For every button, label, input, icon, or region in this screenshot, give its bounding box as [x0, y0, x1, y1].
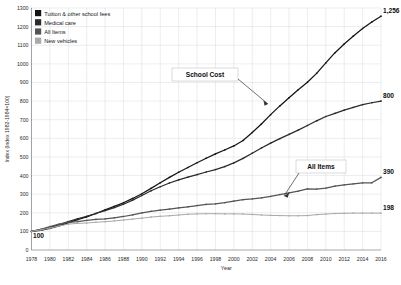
series-marker — [160, 209, 161, 210]
x-axis-tick-label: 2004 — [265, 256, 277, 262]
series-marker — [307, 125, 308, 126]
series-marker — [270, 196, 271, 197]
series-marker — [344, 109, 345, 110]
series-marker — [68, 222, 69, 223]
x-axis-tick-label: 1986 — [99, 256, 111, 262]
series-marker — [334, 185, 335, 186]
series-marker — [169, 177, 170, 178]
y-axis-title: Index (Index 1982-1984=100) — [4, 95, 10, 162]
x-axis-tick-label: 1978 — [26, 256, 38, 262]
series-marker — [114, 220, 115, 221]
y-axis-tick-label: 800 — [20, 98, 29, 104]
legend-label-3: New vehicles — [44, 38, 77, 44]
series-marker — [104, 221, 105, 222]
y-axis-tick-label: 1100 — [17, 42, 28, 48]
series-marker — [160, 216, 161, 217]
series-marker — [252, 214, 253, 215]
series-marker — [261, 123, 262, 124]
series-marker — [353, 183, 354, 184]
series-marker — [344, 43, 345, 44]
series-marker — [242, 140, 243, 141]
series-marker — [371, 182, 372, 183]
series-marker — [224, 166, 225, 167]
x-axis-tick-label: 2002 — [246, 256, 258, 262]
series-marker — [380, 212, 381, 213]
legend-label-1: Medical care — [44, 20, 76, 26]
series-marker — [114, 207, 115, 208]
series-marker — [123, 202, 124, 203]
x-axis-tick-label: 2014 — [357, 256, 369, 262]
x-axis-tick-label: 1992 — [154, 256, 166, 262]
series-marker — [86, 222, 87, 223]
series-marker — [224, 149, 225, 150]
series-marker — [362, 28, 363, 29]
series-marker — [362, 182, 363, 183]
series-marker — [160, 186, 161, 187]
series-marker — [252, 198, 253, 199]
x-axis-tick-label: 1988 — [118, 256, 130, 262]
series-end-label: 390 — [383, 168, 394, 175]
legend-swatch-2 — [35, 28, 41, 34]
series-marker — [233, 213, 234, 214]
series-marker — [362, 212, 363, 213]
series-marker — [270, 142, 271, 143]
series-marker — [169, 182, 170, 183]
series-marker — [187, 167, 188, 168]
series-marker — [77, 218, 78, 219]
series-marker — [316, 73, 317, 74]
series-marker — [77, 223, 78, 224]
series-marker — [58, 223, 59, 224]
legend-label-0: Tuition & other school fees — [44, 11, 110, 17]
series-marker — [104, 218, 105, 219]
series-marker — [95, 219, 96, 220]
series-marker — [334, 213, 335, 214]
series-marker — [270, 215, 271, 216]
series-marker — [353, 35, 354, 36]
legend-label-2: All Items — [44, 29, 66, 35]
series-marker — [49, 227, 50, 228]
series-marker — [95, 222, 96, 223]
series-marker — [187, 177, 188, 178]
series-marker — [187, 214, 188, 215]
x-axis-tick-label: 2006 — [283, 256, 295, 262]
line-chart: 0100200300400500600700800900100011001200… — [0, 0, 401, 285]
y-axis-tick-label: 900 — [20, 79, 29, 85]
chart-container: 0100200300400500600700800900100011001200… — [0, 0, 401, 285]
x-axis-tick-label: 1990 — [136, 256, 148, 262]
series-marker — [298, 215, 299, 216]
series-marker — [362, 104, 363, 105]
series-marker — [252, 153, 253, 154]
series-marker — [371, 212, 372, 213]
series-marker — [132, 218, 133, 219]
series-marker — [123, 219, 124, 220]
series-marker — [68, 223, 69, 224]
series-marker — [206, 213, 207, 214]
series-marker — [132, 214, 133, 215]
series-marker — [150, 216, 151, 217]
series-marker — [261, 214, 262, 215]
x-axis-title: Year — [221, 265, 232, 271]
series-marker — [316, 188, 317, 189]
series-end-label: 198 — [383, 204, 394, 211]
y-axis-tick-label: 700 — [20, 117, 29, 123]
series-marker — [307, 188, 308, 189]
series-marker — [334, 52, 335, 53]
series-marker — [279, 105, 280, 106]
x-axis-tick-label: 1984 — [81, 256, 93, 262]
y-axis-tick-label: 600 — [20, 135, 29, 141]
series-marker — [316, 214, 317, 215]
series-marker — [288, 215, 289, 216]
series-marker — [150, 211, 151, 212]
series-marker — [316, 120, 317, 121]
series-marker — [215, 153, 216, 154]
series-marker — [206, 171, 207, 172]
series-marker — [233, 200, 234, 201]
series-marker — [334, 113, 335, 114]
series-marker — [380, 100, 381, 101]
series-marker — [307, 215, 308, 216]
series-marker — [104, 210, 105, 211]
legend-swatch-3 — [35, 38, 41, 44]
series-marker — [298, 129, 299, 130]
x-axis-tick-label: 2010 — [320, 256, 332, 262]
legend-swatch-0 — [35, 10, 41, 16]
